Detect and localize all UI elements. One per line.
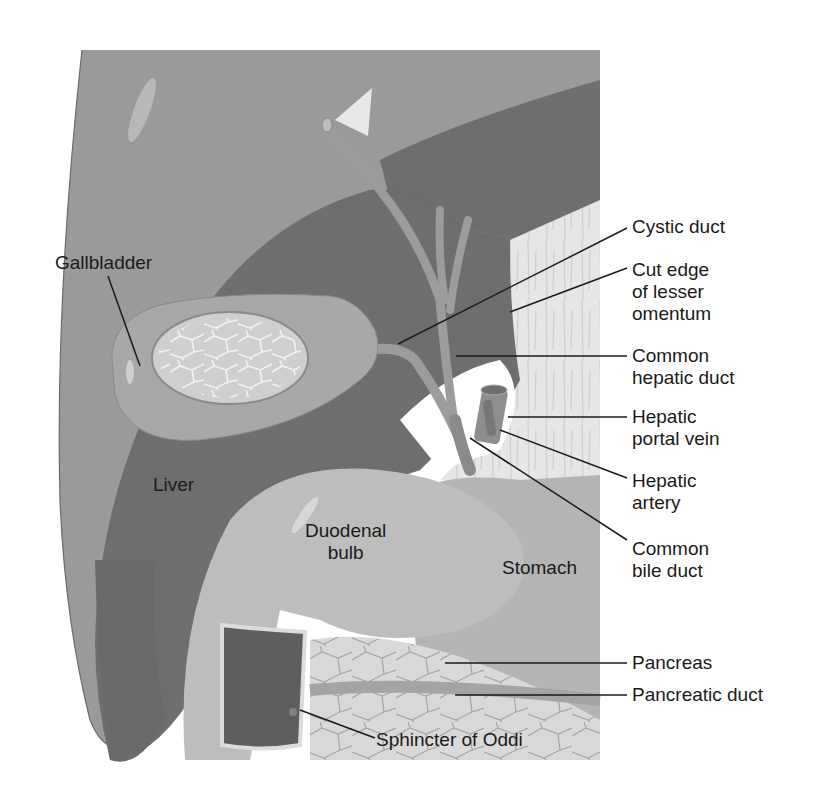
label-hepatic-artery: Hepatic artery	[632, 470, 696, 514]
label-duodenal-bulb: Duodenal bulb	[305, 520, 386, 564]
label-hepatic-portal-vein: Hepatic portal vein	[632, 406, 720, 450]
duodenal-wall-cutaway	[222, 625, 305, 749]
label-common-bile-duct: Common bile duct	[632, 538, 709, 582]
label-stomach: Stomach	[502, 557, 577, 579]
label-cystic-duct: Cystic duct	[632, 216, 725, 238]
label-sphincter-of-oddi: Sphincter of Oddi	[376, 729, 523, 751]
label-liver: Liver	[153, 474, 194, 496]
label-pancreatic-duct: Pancreatic duct	[632, 684, 763, 706]
label-cut-edge-lesser-omentum: Cut edge of lesser omentum	[632, 259, 711, 325]
label-gallbladder: Gallbladder	[55, 252, 152, 274]
label-pancreas: Pancreas	[632, 652, 712, 674]
biliary-anatomy-illustration	[0, 0, 820, 799]
label-common-hepatic-duct: Common hepatic duct	[632, 345, 734, 389]
